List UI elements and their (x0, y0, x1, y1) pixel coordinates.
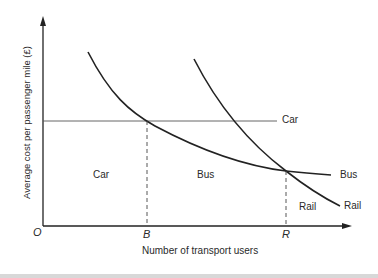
y-axis-label: Average cost per passenger mile (£) (21, 43, 32, 203)
diagram-canvas (0, 0, 378, 278)
bottom-border (0, 274, 378, 278)
x-axis-label: Number of transport users (142, 245, 258, 256)
car-curve-label: Car (282, 114, 298, 125)
region-car-label: Car (93, 169, 109, 180)
bus-curve-label: Bus (340, 169, 357, 180)
tick-r-label: R (282, 228, 290, 240)
region-bus-label: Bus (197, 169, 214, 180)
origin-label: O (33, 226, 42, 238)
rail-cost-curve (194, 59, 340, 206)
x-axis-arrow-icon (342, 223, 352, 229)
y-axis-arrow-icon (40, 16, 46, 26)
tick-b-label: B (143, 228, 150, 240)
region-rail-label: Rail (299, 201, 316, 212)
rail-curve-label: Rail (344, 200, 361, 211)
